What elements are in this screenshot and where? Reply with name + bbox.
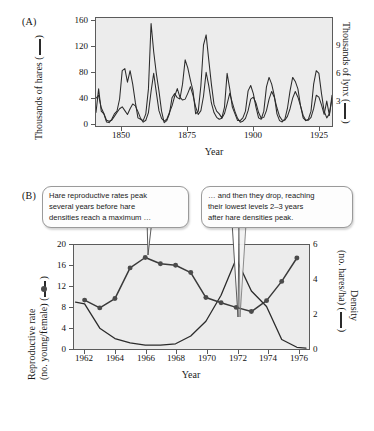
hare-line-swatch-icon bbox=[39, 39, 41, 55]
callout-left: Hare reproductive rates peak several yea… bbox=[42, 186, 189, 228]
callout-left-line2: several years before hare bbox=[49, 202, 182, 213]
panel-a-y-left-legend-paren: ( bbox=[33, 56, 44, 59]
panel-a-label: (A) bbox=[22, 16, 36, 27]
panel-a-xtick-1850: 1850 bbox=[112, 130, 130, 140]
callout-right: … and then they drop, reaching their low… bbox=[201, 186, 353, 228]
panel-a-xtick-1875: 1875 bbox=[178, 130, 196, 140]
panel-a-x-axis-title: Year bbox=[205, 146, 223, 157]
panel-a-ytick-120: 120 bbox=[75, 41, 89, 51]
panel-a-y-right-title-text: Thousands of lynx bbox=[341, 22, 352, 96]
panel-a-y-right-legend-paren: ( bbox=[341, 99, 352, 102]
panel-a-chart-svg bbox=[96, 18, 332, 126]
panel-a-ytick-right-3: 3 bbox=[336, 96, 341, 106]
panel-a-xtick-1900: 1900 bbox=[244, 130, 262, 140]
panel-a-y-right-title: Thousands of lynx () bbox=[341, 22, 352, 124]
panel-a-plot-area bbox=[95, 17, 333, 127]
callout-right-line3: after hare densities peak. bbox=[208, 213, 346, 224]
panel-a-hare-series bbox=[96, 23, 332, 122]
panel-a: (A) Thousands of hares () Thousands of l… bbox=[0, 0, 374, 180]
panel-a-y-left-title-text: Thousands of hares bbox=[33, 62, 44, 140]
callout-right-line2: their lowest levels 2–3 years bbox=[208, 202, 346, 213]
figure-root: (A) Thousands of hares () Thousands of l… bbox=[0, 0, 374, 431]
panel-a-y-left-title: Thousands of hares () bbox=[33, 35, 44, 140]
panel-a-ytick-160: 160 bbox=[75, 15, 89, 25]
panel-a-ytick-40: 40 bbox=[79, 93, 88, 103]
panel-a-ytick-right-9: 9 bbox=[336, 40, 341, 50]
callout-left-line1: Hare reproductive rates peak bbox=[49, 191, 182, 202]
panel-a-ytick-80: 80 bbox=[79, 67, 88, 77]
panel-a-y-left-legend-paren2: ) bbox=[33, 35, 44, 38]
lynx-line-swatch-icon bbox=[345, 103, 347, 119]
callout-left-line3: densities reach a maximum … bbox=[49, 213, 182, 224]
panel-a-ytick-0: 0 bbox=[84, 119, 89, 129]
panel-a-xtick-1925: 1925 bbox=[310, 130, 328, 140]
callout-right-line1: … and then they drop, reaching bbox=[208, 191, 346, 202]
panel-a-y-right-legend-paren2: ) bbox=[341, 120, 352, 123]
panel-b: (B) Reproductive rate (no. young/female)… bbox=[0, 180, 374, 431]
panel-a-ytick-right-6: 6 bbox=[336, 68, 341, 78]
